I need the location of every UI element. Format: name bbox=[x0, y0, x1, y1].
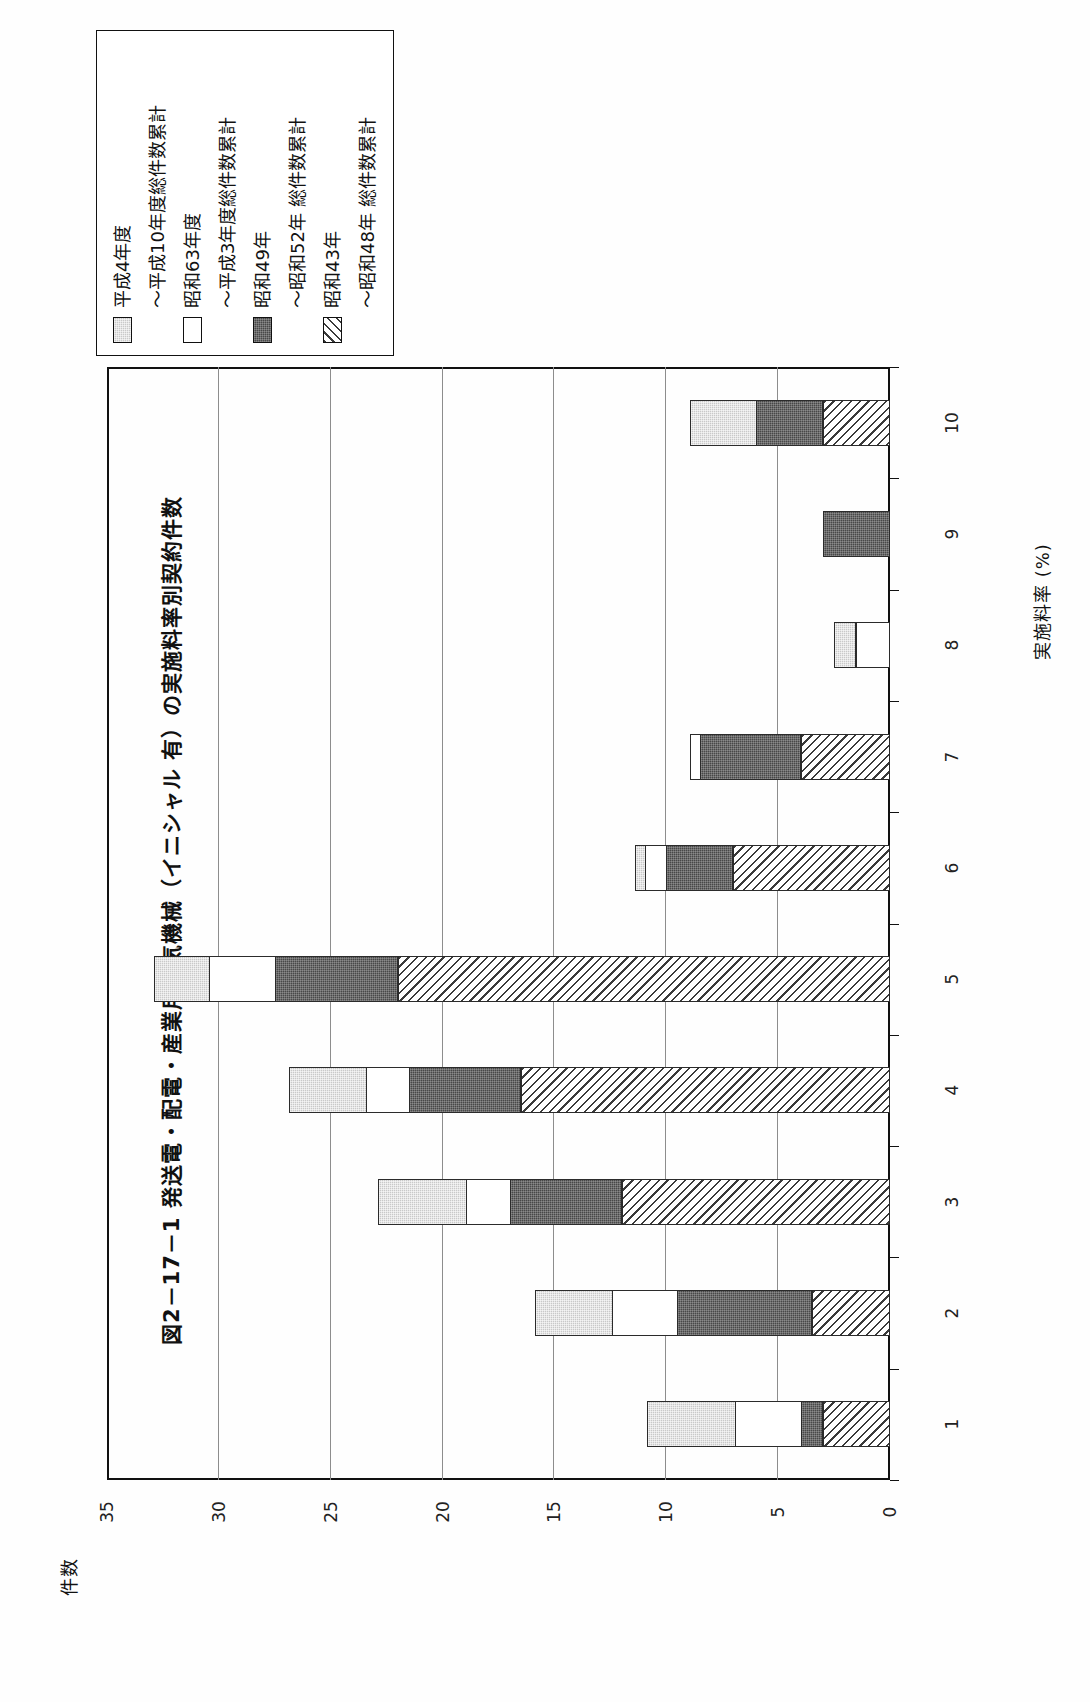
bar-segment-5-gray-dotted bbox=[154, 956, 210, 1002]
bar-rate-10 bbox=[691, 400, 890, 446]
bar-segment-6-white bbox=[645, 845, 667, 891]
legend-swatch-dark-dotted-icon bbox=[253, 317, 272, 343]
value-tick-label-5: 5 bbox=[768, 1492, 788, 1532]
legend-swatch-spacer-icon bbox=[218, 317, 237, 343]
category-tick bbox=[890, 1146, 899, 1147]
category-tick bbox=[890, 1035, 899, 1036]
bar-segment-3-white bbox=[466, 1179, 511, 1225]
bar-segment-10-hatched bbox=[823, 400, 890, 446]
bar-segment-6-hatched bbox=[733, 845, 890, 891]
category-tick bbox=[890, 812, 899, 813]
legend-item-heisei4: 平成4年度 bbox=[107, 43, 138, 343]
legend-swatch-spacer-icon bbox=[358, 317, 377, 343]
bar-rate-7 bbox=[691, 734, 890, 780]
legend-swatch-spacer-icon bbox=[288, 317, 307, 343]
bar-segment-5-dark-dotted bbox=[275, 956, 398, 1002]
category-tick bbox=[890, 1369, 899, 1370]
bar-segment-3-dark-dotted bbox=[510, 1179, 622, 1225]
bar-rate-5 bbox=[156, 956, 890, 1002]
bar-rate-4 bbox=[290, 1067, 890, 1113]
legend-swatch-spacer-icon bbox=[148, 317, 167, 343]
value-tick-label-30: 30 bbox=[209, 1492, 229, 1532]
bar-segment-4-gray-dotted bbox=[289, 1067, 367, 1113]
category-tick-label-3: 3 bbox=[942, 1182, 962, 1222]
bar-segment-3-gray-dotted bbox=[378, 1179, 467, 1225]
bar-segment-2-white bbox=[612, 1290, 679, 1336]
bar-segment-2-dark-dotted bbox=[677, 1290, 811, 1336]
gridline-20 bbox=[442, 367, 443, 1480]
bar-segment-3-hatched bbox=[622, 1179, 890, 1225]
chart-plot-area bbox=[107, 367, 890, 1480]
bar-rate-8 bbox=[835, 622, 890, 668]
category-tick-label-8: 8 bbox=[942, 625, 962, 665]
bar-rate-6 bbox=[637, 845, 890, 891]
legend-swatch-white-icon bbox=[183, 317, 202, 343]
category-tick-label-2: 2 bbox=[942, 1293, 962, 1333]
chart-legend: 平成4年度 〜平成10年度総件数累計 昭和63年度 〜平成3年度総件数累計 昭和… bbox=[96, 30, 394, 356]
legend-item-showa63: 昭和63年度 bbox=[177, 43, 208, 343]
bar-rate-3 bbox=[379, 1179, 890, 1225]
bar-segment-2-hatched bbox=[812, 1290, 890, 1336]
bar-segment-7-dark-dotted bbox=[700, 734, 801, 780]
legend-label-heisei10-total: 〜平成10年度総件数累計 bbox=[149, 105, 167, 308]
category-tick-label-5: 5 bbox=[942, 959, 962, 999]
bar-segment-4-white bbox=[366, 1067, 411, 1113]
bar-segment-10-dark-dotted bbox=[756, 400, 823, 446]
legend-item-showa43: 昭和43年 bbox=[317, 43, 348, 343]
plot-frame-left bbox=[107, 367, 109, 1480]
category-tick bbox=[890, 924, 899, 925]
bar-rate-1 bbox=[648, 1401, 890, 1447]
bar-rate-9 bbox=[823, 511, 890, 557]
legend-label-heisei3-total: 〜平成3年度総件数累計 bbox=[219, 117, 237, 308]
bar-segment-1-hatched bbox=[823, 1401, 890, 1447]
category-tick bbox=[890, 1257, 899, 1258]
legend-label-showa43: 昭和43年 bbox=[324, 231, 342, 308]
category-tick bbox=[890, 367, 899, 368]
legend-label-showa49: 昭和49年 bbox=[254, 231, 272, 308]
value-tick-label-10: 10 bbox=[656, 1492, 676, 1532]
bar-segment-4-hatched bbox=[521, 1067, 890, 1113]
value-tick-label-15: 15 bbox=[544, 1492, 564, 1532]
bar-segment-9-dark-dotted bbox=[823, 511, 890, 557]
plot-frame-bottom bbox=[107, 1478, 890, 1480]
category-tick bbox=[890, 590, 899, 591]
bar-segment-6-dark-dotted bbox=[666, 845, 733, 891]
category-tick-label-6: 6 bbox=[942, 848, 962, 888]
category-tick bbox=[890, 1480, 899, 1481]
category-tick-label-4: 4 bbox=[942, 1070, 962, 1110]
gridline-30 bbox=[218, 367, 219, 1480]
value-tick-label-35: 35 bbox=[97, 1492, 117, 1532]
category-tick bbox=[890, 478, 899, 479]
bar-segment-8-white bbox=[856, 622, 890, 668]
legend-item-showa49: 昭和49年 bbox=[247, 43, 278, 343]
legend-swatch-gray-dotted-icon bbox=[113, 317, 132, 343]
legend-items: 平成4年度 〜平成10年度総件数累計 昭和63年度 〜平成3年度総件数累計 昭和… bbox=[107, 43, 383, 343]
category-tick bbox=[890, 701, 899, 702]
plot-frame-top bbox=[107, 367, 890, 369]
bar-segment-7-hatched bbox=[801, 734, 890, 780]
category-tick-label-1: 1 bbox=[942, 1404, 962, 1444]
bar-segment-4-dark-dotted bbox=[409, 1067, 521, 1113]
bar-rate-2 bbox=[536, 1290, 890, 1336]
category-tick-label-7: 7 bbox=[942, 737, 962, 777]
value-tick-label-25: 25 bbox=[321, 1492, 341, 1532]
legend-item-heisei3-total: 〜平成3年度総件数累計 bbox=[212, 43, 243, 343]
bar-segment-2-gray-dotted bbox=[535, 1290, 613, 1336]
bar-segment-5-white bbox=[209, 956, 276, 1002]
bar-segment-1-gray-dotted bbox=[647, 1401, 736, 1447]
bar-segment-10-gray-dotted bbox=[690, 400, 757, 446]
legend-label-showa48-total: 〜昭和48年 総件数累計 bbox=[359, 117, 377, 308]
gridline-25 bbox=[330, 367, 331, 1480]
category-tick-label-10: 10 bbox=[942, 403, 962, 443]
bar-segment-1-white bbox=[735, 1401, 802, 1447]
value-axis-label: 件数 bbox=[55, 1558, 81, 1596]
legend-item-showa48-total: 〜昭和48年 総件数累計 bbox=[352, 43, 383, 343]
legend-label-showa63: 昭和63年度 bbox=[184, 213, 202, 308]
category-tick-label-9: 9 bbox=[942, 514, 962, 554]
bar-segment-5-hatched bbox=[398, 956, 890, 1002]
figure-page: 図2－17－1 発送電・配電・産業用電気機械（イニシャル 有）の実施料率別契約件… bbox=[0, 0, 1090, 1702]
category-axis-label: 実施料率 (%) bbox=[1028, 543, 1054, 660]
legend-label-showa52-total: 〜昭和52年 総件数累計 bbox=[289, 117, 307, 308]
value-tick-label-20: 20 bbox=[433, 1492, 453, 1532]
legend-item-heisei10-total: 〜平成10年度総件数累計 bbox=[142, 43, 173, 343]
